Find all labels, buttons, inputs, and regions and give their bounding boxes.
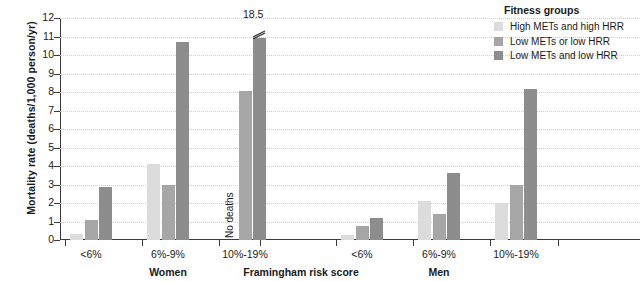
bar [85,220,98,240]
y-axis-tick [54,203,60,204]
bar [447,173,460,240]
y-axis-tick [54,92,60,93]
y-axis-tick-label: 7 [32,104,54,116]
no-deaths-annotation: No deaths [224,192,235,238]
y-axis-tick-label: 8 [32,85,54,97]
y-axis-tick-label: 11 [32,30,54,42]
bar [510,185,523,241]
y-axis-tick [54,222,60,223]
y-axis-tick-label: 4 [32,159,54,171]
y-axis-tick-label: 0 [32,233,54,245]
bar [433,214,446,240]
x-axis-tick [260,240,261,246]
x-axis-tick-label: 6%-9% [404,248,474,260]
x-axis-tick [65,240,66,246]
axis-break-icon [252,25,267,34]
y-axis-tick-label: 1 [32,215,54,227]
legend-title: Fitness groups [504,4,641,16]
legend-item-label: High METs and high HRR [510,21,624,32]
bar [495,203,508,240]
x-axis-tick [558,240,559,246]
x-axis-tick-label: <6% [327,248,397,260]
y-axis-tick [54,166,60,167]
plot-area: 0123456789101112<6%6%-9%No deaths18.510%… [60,18,502,240]
y-axis-tick-label: 10 [32,48,54,60]
x-axis-tick [413,240,414,246]
y-axis-tick-label: 12 [32,11,54,23]
y-axis-tick [54,37,60,38]
legend-item[interactable]: Low METs or low HRR [494,36,641,47]
bar [147,164,160,240]
x-axis-tick-label: 10%-19% [210,248,280,260]
y-axis-tick [54,129,60,130]
bar [370,218,383,240]
bar [418,201,431,240]
bar [99,187,112,240]
y-axis-tick-label: 9 [32,67,54,79]
x-axis-tick [219,240,220,246]
bar [162,185,175,240]
bar [524,89,537,240]
x-axis-tick [336,240,337,246]
y-axis-tick [54,55,60,56]
x-axis-tick [490,240,491,246]
x-axis-tick [142,240,143,246]
gridline [60,92,640,93]
bar [176,42,189,240]
y-axis-tick [54,111,60,112]
bar [341,235,354,240]
legend-item-label: Low METs and low HRR [510,50,618,61]
x-axis-tick-label: <6% [56,248,126,260]
y-axis-tick-label: 3 [32,178,54,190]
bar [253,38,266,240]
x-axis-title: Framingham risk score [151,266,451,278]
y-axis-tick-label: 2 [32,196,54,208]
y-axis-tick [54,74,60,75]
x-axis-tick-label: 10%-19% [481,248,551,260]
y-axis-tick [54,185,60,186]
gridline [60,129,640,130]
y-axis-tick [54,148,60,149]
gridline [60,148,640,149]
y-axis-tick-label: 6 [32,122,54,134]
y-axis-tick [54,240,60,241]
gridline [60,74,640,75]
legend-swatch-icon [494,37,503,46]
legend-item[interactable]: Low METs and low HRR [494,50,641,61]
legend-swatch-icon [494,22,503,31]
y-axis-tick [54,18,60,19]
legend-item-label: Low METs or low HRR [510,36,610,47]
value-label-18-5: 18.5 [243,8,263,20]
legend-swatch-icon [494,51,503,60]
bar [239,91,252,240]
x-axis-tick-label: 6%-9% [133,248,203,260]
bar [70,234,83,240]
legend: Fitness groups High METs and high HRRLow… [494,4,641,65]
gridline [60,111,640,112]
chart-root: Mortality rate (deaths/1,000 person/yr) … [0,0,641,282]
bar [356,226,369,240]
legend-item[interactable]: High METs and high HRR [494,21,641,32]
y-axis-tick-label: 5 [32,141,54,153]
